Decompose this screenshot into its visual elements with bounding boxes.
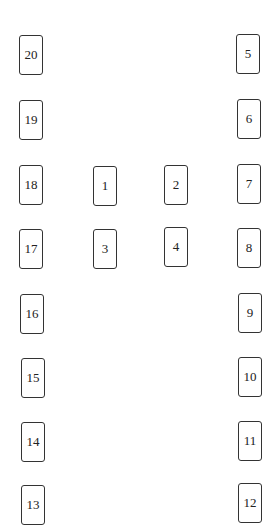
seat-label: 12 — [244, 495, 257, 511]
seat-7: 13 — [21, 485, 45, 525]
seat-12: 5 — [236, 34, 260, 74]
seat-label: 10 — [244, 369, 257, 385]
seat-label: 8 — [246, 240, 253, 256]
seat-10: 3 — [93, 229, 117, 269]
seat-4: 16 — [20, 294, 44, 334]
seat-16: 9 — [238, 293, 262, 333]
cropped-header-glyph: ¨ — [138, 0, 142, 8]
seat-19: 12 — [238, 483, 262, 523]
seat-8: 1 — [93, 166, 117, 206]
seat-label: 5 — [245, 46, 252, 62]
seat-label: 17 — [25, 241, 38, 257]
seat-label: 6 — [246, 111, 253, 127]
seat-label: 13 — [27, 497, 40, 513]
seat-label: 1 — [102, 178, 109, 194]
seat-6: 14 — [21, 422, 45, 462]
seat-2: 18 — [19, 165, 43, 205]
seat-13: 6 — [237, 99, 261, 139]
seat-label: 9 — [247, 305, 254, 321]
seat-label: 11 — [244, 433, 257, 449]
seat-18: 11 — [238, 421, 262, 461]
seat-label: 15 — [27, 370, 40, 386]
seat-11: 4 — [164, 227, 188, 267]
seat-14: 7 — [237, 164, 261, 204]
seat-label: 3 — [102, 241, 109, 257]
seat-label: 19 — [25, 112, 38, 128]
seat-label: 20 — [25, 47, 38, 63]
seat-label: 18 — [25, 177, 38, 193]
seat-label: 14 — [27, 434, 40, 450]
seat-label: 7 — [246, 176, 253, 192]
seat-3: 17 — [19, 229, 43, 269]
seat-1: 19 — [19, 100, 43, 140]
seat-label: 2 — [173, 177, 180, 193]
seat-label: 16 — [26, 306, 39, 322]
seat-label: 4 — [173, 239, 180, 255]
seat-17: 10 — [238, 357, 262, 397]
seat-0: 20 — [19, 35, 43, 75]
seat-15: 8 — [237, 228, 261, 268]
seat-9: 2 — [164, 165, 188, 205]
seat-5: 15 — [21, 358, 45, 398]
